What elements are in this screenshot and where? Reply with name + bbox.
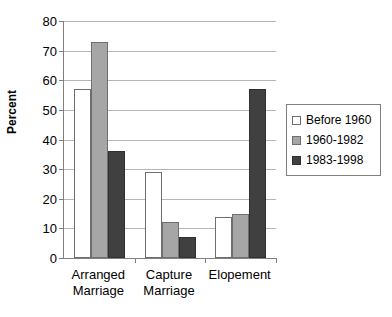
x-axis-separator-1 — [205, 258, 206, 263]
legend-item-0[interactable]: Before 1960 — [292, 110, 376, 130]
y-axis-title: Percent — [5, 72, 19, 152]
plot-area: 80706050403020100 — [63, 21, 276, 259]
bar-2-1[interactable] — [232, 214, 249, 258]
y-tick-label-70: 70 — [43, 43, 57, 58]
bar-1-0[interactable] — [145, 172, 162, 258]
y-tick-label-20: 20 — [43, 191, 57, 206]
x-tick-label-0: Arranged Marriage — [63, 267, 134, 299]
bar-series-container — [64, 21, 276, 258]
bar-1-1[interactable] — [162, 222, 179, 258]
bar-0-1[interactable] — [91, 42, 108, 258]
bar-2-2[interactable] — [249, 89, 266, 258]
gridline-0 — [64, 258, 276, 259]
x-axis-separator-2 — [276, 258, 277, 263]
y-tick-label-60: 60 — [43, 73, 57, 88]
series-2-swatch — [292, 156, 301, 165]
x-tick-label-1: Capture Marriage — [134, 267, 205, 299]
legend-label-1: 1960-1982 — [306, 133, 363, 147]
y-tick-label-80: 80 — [43, 14, 57, 29]
y-tick-label-50: 50 — [43, 102, 57, 117]
x-axis-separator-0 — [135, 258, 136, 263]
bar-2-0[interactable] — [215, 217, 232, 258]
series-1-swatch — [292, 136, 301, 145]
chart-legend: Before 19601960-19821983-1998 — [286, 104, 381, 176]
bar-group-1 — [145, 21, 196, 258]
y-tick-label-40: 40 — [43, 132, 57, 147]
bar-0-0[interactable] — [74, 89, 91, 258]
legend-label-2: 1983-1998 — [306, 153, 363, 167]
bar-chart-figure: Percent 80706050403020100 Arranged Marri… — [0, 0, 392, 317]
bar-1-2[interactable] — [179, 237, 196, 258]
y-tick-label-10: 10 — [43, 221, 57, 236]
y-tick-mark-0 — [59, 258, 64, 259]
bar-group-0 — [74, 21, 125, 258]
legend-label-0: Before 1960 — [306, 113, 371, 127]
x-tick-label-2: Elopement — [204, 267, 275, 283]
bar-0-2[interactable] — [108, 151, 125, 258]
y-tick-label-0: 0 — [50, 251, 57, 266]
legend-item-2[interactable]: 1983-1998 — [292, 150, 376, 170]
legend-item-1[interactable]: 1960-1982 — [292, 130, 376, 150]
y-tick-label-30: 30 — [43, 162, 57, 177]
bar-group-2 — [215, 21, 266, 258]
series-0-swatch — [292, 116, 301, 125]
